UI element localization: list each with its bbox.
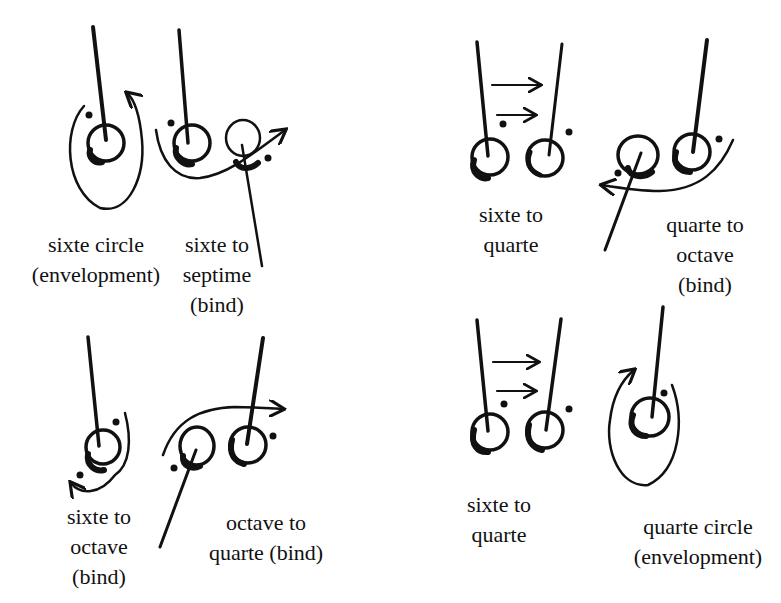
label-quarte-to-octave: quarte to octave (bind) [650,210,760,300]
label-line: octave [650,240,760,270]
blade-icon [93,27,106,140]
label-line: quarte (bind) [196,538,336,568]
blade-icon [160,450,196,547]
point-dot-icon [501,401,508,408]
point-dot-icon [168,120,175,127]
circular-arrow-icon [609,370,679,485]
label-line: septime [172,260,262,290]
guard-circle-icon [472,139,508,175]
label-line: sixte circle [26,230,166,260]
label-line: quarte [454,520,544,550]
label-line: (bind) [650,270,760,300]
label-line: (bind) [172,290,262,320]
point-dot-icon [500,121,507,128]
diagram-sixte-to-quarte-bottom [472,319,573,452]
point-dot-icon [270,433,277,440]
label-line: sixte to [454,490,544,520]
point-dot-icon [113,419,120,426]
point-dot-icon [77,472,84,479]
label-octave-to-quarte: octave to quarte (bind) [196,508,336,568]
point-dot-icon [86,112,93,119]
label-sixte-to-octave: sixte to octave (bind) [54,502,144,592]
point-dot-icon [716,136,723,143]
label-line: sixte to [172,230,262,260]
label-quarte-circle: quarte circle (envelopment) [618,512,778,572]
label-sixte-to-quarte-top: sixte to quarte [466,200,556,260]
diagram-sixte-to-quarte-top [472,42,573,178]
point-dot-icon [171,465,178,472]
diagram-quarte-circle [609,307,679,485]
point-dot-icon [661,390,668,397]
circular-arrow-icon [70,93,142,209]
point-dot-icon [566,129,573,136]
label-line: (bind) [54,562,144,592]
label-line: octave [54,532,144,562]
label-sixte-circle: sixte circle (envelopment) [26,230,166,290]
label-line: quarte circle [618,512,778,542]
point-dot-icon [615,170,622,177]
blade-icon [549,44,562,155]
label-line: quarte [466,230,556,260]
label-line: quarte to [650,210,760,240]
label-sixte-to-septime: sixte to septime (bind) [172,230,262,320]
label-sixte-to-quarte-bottom: sixte to quarte [454,490,544,550]
point-dot-icon [566,406,573,413]
guard-circle-icon [618,136,658,174]
point-dot-icon [265,155,272,162]
blade-icon [88,337,99,446]
diagram-sixte-circle [70,27,142,209]
guard-circle-icon [86,430,120,464]
label-line: (envelopment) [26,260,166,290]
label-line: sixte to [54,502,144,532]
label-line: (envelopment) [618,542,778,572]
diagram-sixte-to-octave [71,337,129,491]
label-line: sixte to [466,200,556,230]
label-line: octave to [196,508,336,538]
